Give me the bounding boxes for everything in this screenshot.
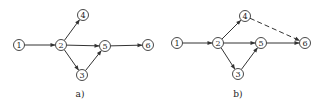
svg-text:1: 1 (174, 39, 179, 48)
arrow-2-4 (64, 20, 79, 41)
network-diagrams: 124536 124536 a) b) (0, 0, 320, 109)
node-6: 6 (143, 40, 154, 51)
caption-a: a) (76, 89, 85, 99)
node-2: 2 (213, 38, 224, 49)
svg-text:3: 3 (79, 71, 84, 80)
arrow-2-3 (221, 48, 235, 69)
svg-text:6: 6 (145, 41, 150, 50)
node-3: 3 (77, 70, 88, 81)
dummy-arrow-4-6 (250, 18, 300, 40)
node-4: 4 (240, 11, 251, 22)
arrow-2-4 (222, 20, 241, 39)
arrow-2-3 (64, 50, 78, 71)
arrow-3-5 (241, 48, 257, 70)
svg-text:1: 1 (16, 41, 21, 50)
node-5: 5 (100, 41, 111, 52)
svg-text:2: 2 (215, 39, 220, 48)
arrow-5-6 (110, 45, 142, 46)
svg-text:5: 5 (258, 39, 263, 48)
node-3: 3 (233, 69, 244, 80)
node-1: 1 (172, 38, 183, 49)
svg-text:3: 3 (235, 70, 240, 79)
svg-text:4: 4 (80, 11, 85, 20)
caption-b: b) (233, 89, 242, 99)
svg-text:6: 6 (302, 39, 307, 48)
node-1: 1 (14, 40, 25, 51)
svg-text:5: 5 (102, 42, 107, 51)
arrow-2-5 (66, 45, 99, 46)
svg-text:2: 2 (58, 41, 63, 50)
node-6: 6 (300, 38, 311, 49)
svg-text:4: 4 (242, 12, 247, 21)
node-5: 5 (256, 38, 267, 49)
arrow-3-5 (85, 51, 101, 71)
diagram-b: 124536 (172, 11, 311, 80)
node-2: 2 (56, 40, 67, 51)
node-4: 4 (78, 10, 89, 21)
diagram-a: 124536 (14, 10, 154, 81)
